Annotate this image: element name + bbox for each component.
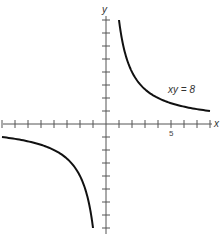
x-tick-label-5: 5 bbox=[169, 129, 174, 138]
equation-annotation: xy = 8 bbox=[167, 84, 195, 95]
x-axis-label: x bbox=[213, 118, 220, 129]
hyperbola-branch-2 bbox=[2, 137, 93, 228]
hyperbola-chart: x y xy = 8 5 bbox=[0, 0, 223, 236]
hyperbola-branch-1 bbox=[119, 20, 210, 111]
axes bbox=[2, 16, 212, 234]
y-axis-label: y bbox=[101, 4, 108, 15]
